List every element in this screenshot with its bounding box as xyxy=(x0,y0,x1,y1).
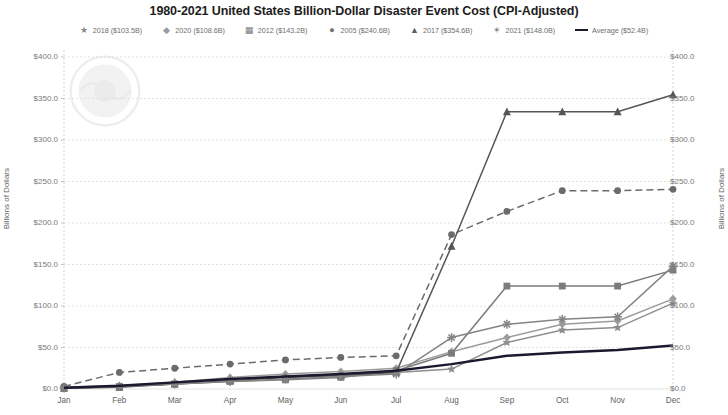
x-tick-label-apr: Apr xyxy=(224,396,237,405)
x-tick-label-jul: Jul xyxy=(391,396,401,405)
circle-marker xyxy=(448,231,455,238)
circle-marker xyxy=(393,352,400,359)
y-axis-right-title: Billions of Dollars xyxy=(717,168,726,229)
y-tick-label-left: $0.0 xyxy=(42,384,58,393)
x-tick-label-oct: Oct xyxy=(556,396,569,405)
square-marker xyxy=(448,350,455,357)
y-axis-left-ticks: $0.0$50.0$100.0$150.0$200.0$250.0$300.0$… xyxy=(10,0,58,415)
x-tick-label-nov: Nov xyxy=(610,396,625,405)
x-tick-label-jan: Jan xyxy=(57,396,70,405)
y-tick-label-left: $350.0 xyxy=(34,94,58,103)
circle-marker xyxy=(559,187,566,194)
x-tick-label-aug: Aug xyxy=(444,396,459,405)
series-1 xyxy=(60,295,677,392)
series-line xyxy=(64,189,673,386)
y-axis-left-title: Billions of Dollars xyxy=(2,168,11,229)
y-tick-label-right: $100.0 xyxy=(670,301,694,310)
x-tick-label-jun: Jun xyxy=(334,396,347,405)
y-axis-right-ticks: $0.0$50.0$100.0$150.0$200.0$250.0$300.0$… xyxy=(670,0,718,415)
series-6 xyxy=(64,346,673,388)
y-tick-label-right: $0.0 xyxy=(670,384,686,393)
series-4 xyxy=(60,90,677,391)
triangle-marker xyxy=(448,242,456,250)
x-tick-label-dec: Dec xyxy=(666,396,681,405)
x-tick-label-mar: Mar xyxy=(168,396,182,405)
asterisk-marker xyxy=(613,312,622,321)
circle-marker xyxy=(337,354,344,361)
asterisk-marker xyxy=(558,315,567,324)
x-tick-label-may: May xyxy=(278,396,293,405)
square-marker xyxy=(559,283,566,290)
y-tick-label-right: $150.0 xyxy=(670,260,694,269)
asterisk-marker xyxy=(447,333,456,342)
x-tick-label-feb: Feb xyxy=(112,396,126,405)
y-tick-label-right: $300.0 xyxy=(670,135,694,144)
y-tick-label-left: $200.0 xyxy=(34,218,58,227)
circle-marker xyxy=(227,361,234,368)
y-tick-label-right: $400.0 xyxy=(670,52,694,61)
y-tick-label-right: $200.0 xyxy=(670,218,694,227)
y-tick-label-left: $300.0 xyxy=(34,135,58,144)
disaster-cost-chart: 1980-2021 United States Billion-Dollar D… xyxy=(0,0,728,415)
y-tick-label-left: $250.0 xyxy=(34,177,58,186)
square-marker xyxy=(504,283,511,290)
series-line xyxy=(64,346,673,388)
y-tick-label-left: $150.0 xyxy=(34,260,58,269)
circle-marker xyxy=(116,369,123,376)
y-tick-label-right: $250.0 xyxy=(670,177,694,186)
circle-marker xyxy=(171,365,178,372)
series-line xyxy=(64,95,673,388)
y-tick-label-right: $350.0 xyxy=(670,94,694,103)
y-tick-label-left: $400.0 xyxy=(34,52,58,61)
series-3 xyxy=(61,186,677,390)
star-marker xyxy=(447,364,456,372)
plot-area xyxy=(0,0,728,415)
x-tick-label-sep: Sep xyxy=(500,396,515,405)
y-tick-label-right: $50.0 xyxy=(670,343,690,352)
diamond-marker xyxy=(503,333,511,341)
square-marker xyxy=(614,283,621,290)
y-tick-label-left: $100.0 xyxy=(34,301,58,310)
asterisk-marker xyxy=(503,320,512,329)
asterisk-marker xyxy=(170,380,179,389)
y-tick-label-left: $50.0 xyxy=(38,343,58,352)
circle-marker xyxy=(614,187,621,194)
circle-marker xyxy=(282,357,289,364)
series-0 xyxy=(60,299,678,392)
circle-marker xyxy=(504,208,511,215)
